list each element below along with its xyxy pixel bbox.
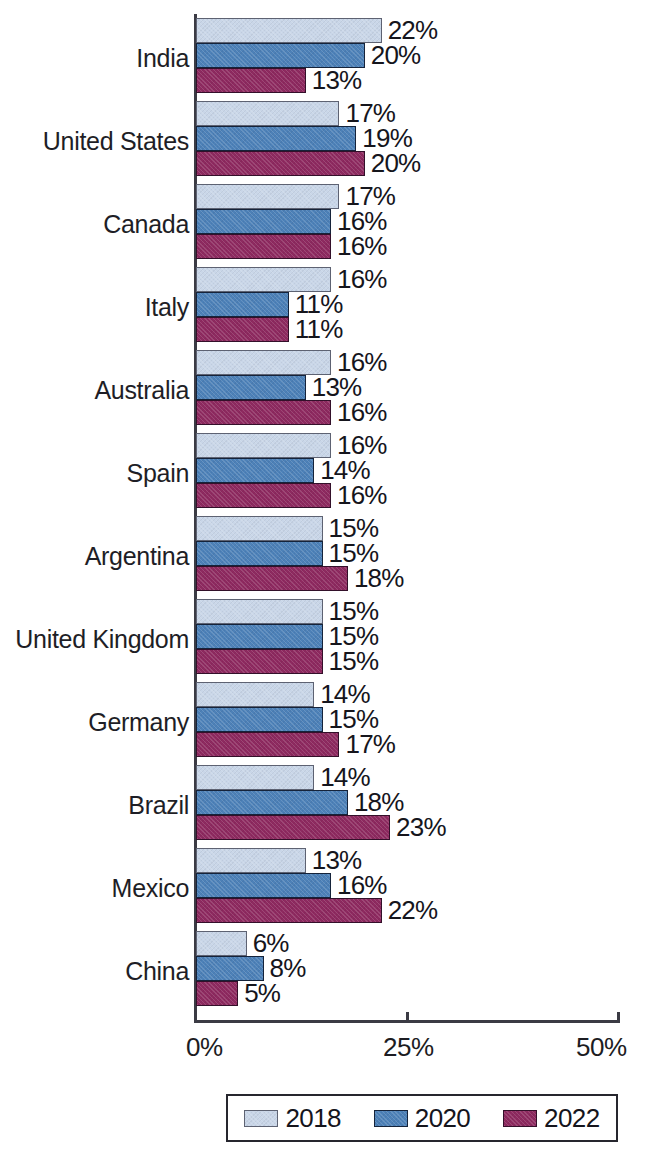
bar-row: 15% [196,599,443,624]
bar-value-label: 16% [337,267,387,292]
legend-swatch-2020-icon [374,1110,408,1127]
bar-value-label: 22% [388,898,438,923]
category-label: Italy [145,295,189,320]
bar-texture [197,235,330,258]
bar-texture [197,152,364,175]
bar [196,815,390,840]
bar-value-label: 20% [371,151,421,176]
legend-swatch-2022-icon [503,1110,537,1127]
bar [196,682,314,707]
bar-value-label: 23% [396,815,446,840]
category-label: United States [43,129,189,154]
bar-row: 16% [196,209,451,234]
x-axis-tick [406,1012,409,1023]
bar-row: 5% [196,981,358,1006]
bar-group: Australia16%13%16% [0,350,653,425]
category-label: Germany [88,710,189,735]
x-axis-tick-label: 0% [186,1032,223,1063]
bar-value-label: 16% [337,234,387,259]
bar-row: 16% [196,400,451,425]
bar-texture [197,69,305,92]
bar-row: 15% [196,649,443,674]
bar-row: 17% [196,184,459,209]
bar-group: United States17%19%20% [0,101,653,176]
bar-row: 13% [196,68,426,93]
bar-texture [197,791,347,814]
legend-item: 2022 [503,1103,599,1134]
bar [196,292,289,317]
bar [196,873,331,898]
bar-texture [197,185,338,208]
category-label: India [136,46,189,71]
legend-item: 2020 [374,1103,470,1134]
bar [196,458,314,483]
bar-row: 18% [196,566,468,591]
bar-row: 8% [196,956,384,981]
bar-value-label: 18% [354,566,404,591]
bar-value-label: 17% [345,732,395,757]
bar-texture [197,733,338,756]
category-label: United Kingdom [15,627,189,652]
bar-texture [197,683,313,706]
bar-value-label: 20% [371,43,421,68]
bar [196,649,323,674]
bar [196,234,331,259]
bar-texture [197,434,330,457]
bar-group: Germany14%15%17% [0,682,653,757]
bar-row: 16% [196,234,451,259]
bar [196,599,323,624]
bar [196,101,339,126]
legend-item: 2018 [244,1103,340,1134]
bar [196,516,323,541]
bar-texture [197,484,330,507]
category-label: China [125,959,189,984]
bar [196,68,306,93]
bar-row: 11% [196,317,409,342]
bar [196,483,331,508]
legend-label-2020: 2020 [415,1103,470,1134]
bar [196,790,348,815]
x-axis-tick [617,1012,620,1023]
bar-texture [197,517,322,540]
bar-row: 13% [196,848,426,873]
bar [196,400,331,425]
bar-texture [197,816,389,839]
bar [196,566,348,591]
x-axis-tick-label: 50% [576,1032,627,1063]
bar-texture [197,44,364,67]
bar [196,981,238,1006]
bar-row: 13% [196,375,426,400]
bar-group: Italy16%11%11% [0,267,653,342]
bar-texture [197,268,330,291]
plot-area: India22%20%13%United States17%19%20%Cana… [0,0,653,1030]
legend-swatch-2018-icon [244,1110,278,1127]
bar [196,765,314,790]
bar-texture [197,459,313,482]
bar [196,350,331,375]
bar [196,209,331,234]
bar [196,126,356,151]
bar-value-label: 5% [244,981,280,1006]
bar-value-label: 16% [337,400,387,425]
bar [196,732,339,757]
bar-row: 19% [196,126,476,151]
bar [196,931,247,956]
bar-row: 15% [196,516,443,541]
bar-texture [197,874,330,897]
bar-texture [197,19,381,42]
bar-texture [197,625,322,648]
bar-group: Spain16%14%16% [0,433,653,508]
bar-texture [197,932,246,955]
bar-texture [197,600,322,623]
bar-texture [197,899,381,922]
bar-group: India22%20%13% [0,18,653,93]
bar-group: United Kingdom15%15%15% [0,599,653,674]
bar [196,848,306,873]
bar-row: 17% [196,732,459,757]
bar-texture [197,708,322,731]
bar-row: 20% [196,151,485,176]
bar-texture [197,567,347,590]
bar [196,151,365,176]
bar-group: Argentina15%15%18% [0,516,653,591]
bar [196,317,289,342]
